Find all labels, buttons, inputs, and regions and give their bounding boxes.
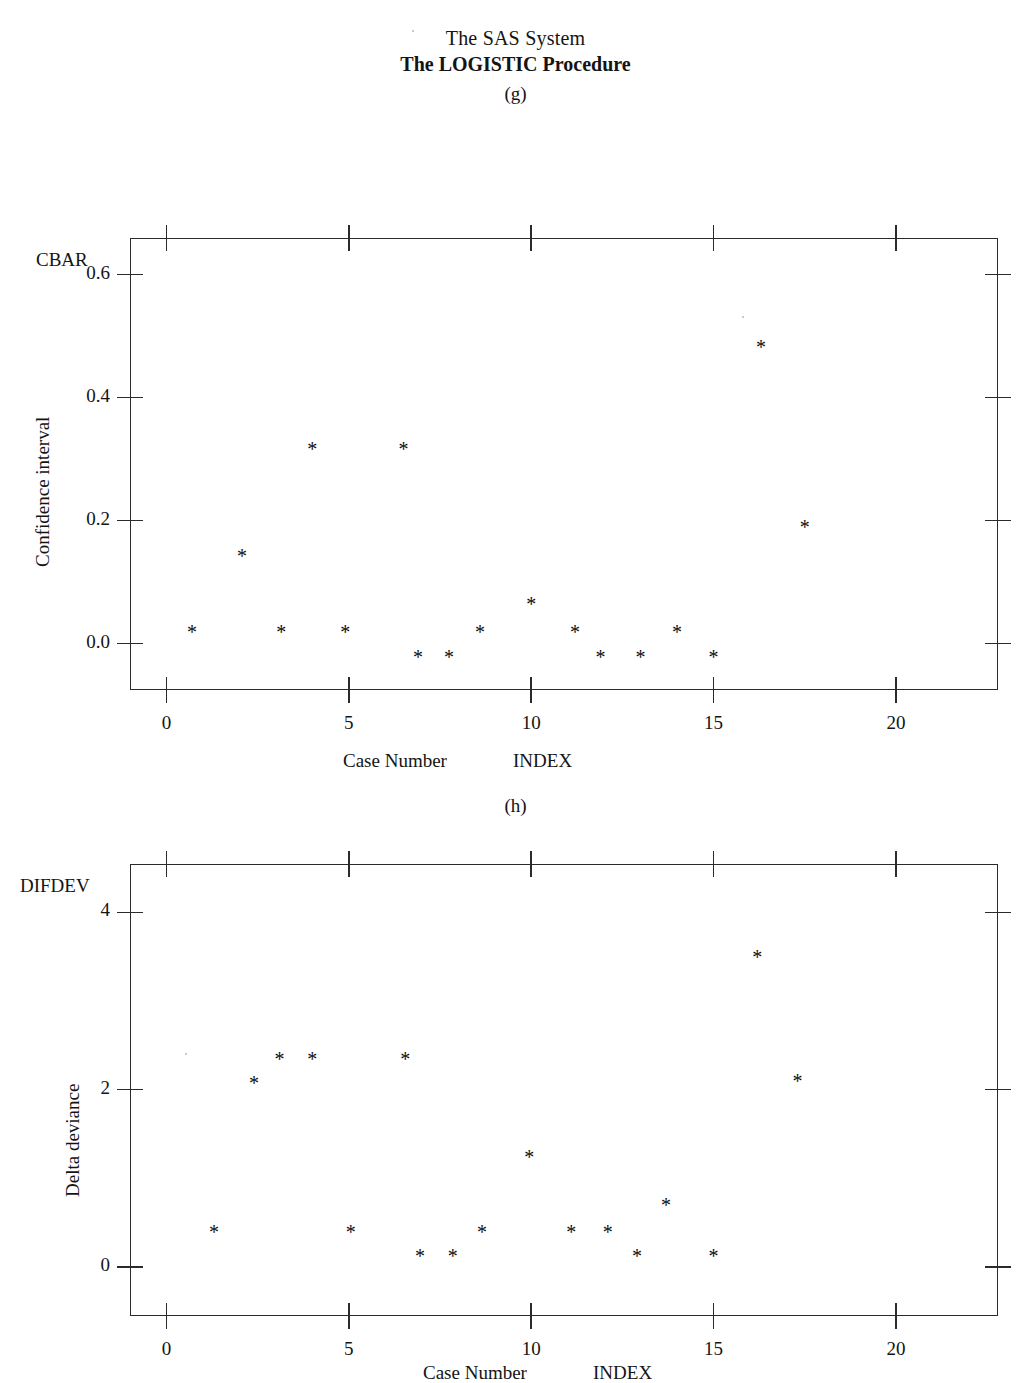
data-point-marker: * (566, 1222, 576, 1242)
x-tick-mark (713, 1303, 715, 1329)
y-tick-label: 0 (38, 1254, 110, 1276)
x-tick-mark (166, 677, 168, 703)
x-tick-mark (895, 677, 897, 703)
y-tick-mark (985, 912, 1011, 914)
x-tick-mark (895, 851, 897, 877)
y-tick-mark (117, 912, 143, 914)
y-tick-label: 4 (38, 899, 110, 921)
data-point-marker: * (415, 1246, 425, 1266)
data-point-marker: * (632, 1246, 642, 1266)
scan-speck (412, 30, 414, 32)
data-layer-h: 05101520024***************** (0, 107, 1031, 667)
y-tick-label: 2 (38, 1077, 110, 1099)
data-point-marker: * (275, 1049, 285, 1069)
x-tick-mark (166, 1303, 168, 1329)
data-point-marker: * (661, 1195, 671, 1215)
data-point-marker: * (209, 1222, 219, 1242)
panel-tag-g: (g) (0, 81, 1031, 107)
y-tick-mark (117, 1266, 143, 1268)
x-axis-title-case-number-h: Case Number (423, 1362, 527, 1383)
x-tick-mark (348, 851, 350, 877)
panel-tag-h: (h) (0, 793, 1031, 819)
data-point-marker: * (477, 1222, 487, 1242)
sas-system-title: The SAS System (0, 26, 1031, 51)
data-point-marker: * (603, 1222, 613, 1242)
plot-frame-h (130, 864, 998, 1316)
procedure-title: The LOGISTIC Procedure (0, 51, 1031, 77)
x-tick-label: 20 (866, 712, 926, 734)
y-tick-mark (985, 1266, 1011, 1268)
x-tick-label: 10 (501, 712, 561, 734)
x-axis-title-index-h: INDEX (593, 1362, 652, 1383)
data-point-marker: * (524, 1147, 534, 1167)
y-tick-mark (985, 1089, 1011, 1091)
data-point-marker: * (448, 1246, 458, 1266)
data-point-marker: * (249, 1073, 259, 1093)
x-tick-mark (530, 677, 532, 703)
y-axis-title-h: Delta deviance (62, 1083, 84, 1196)
data-point-marker: * (307, 1049, 317, 1069)
data-point-marker: * (346, 1222, 356, 1242)
x-tick-label: 15 (684, 1338, 744, 1360)
x-tick-label: 0 (136, 712, 196, 734)
data-point-marker: * (752, 947, 762, 967)
x-tick-mark (713, 851, 715, 877)
data-point-marker: * (792, 1071, 802, 1091)
x-tick-label: 5 (319, 712, 379, 734)
x-tick-mark (530, 851, 532, 877)
x-tick-label: 5 (319, 1338, 379, 1360)
axis-corner-label-difdev: DIFDEV (20, 875, 90, 897)
y-tick-mark (117, 1089, 143, 1091)
scan-speck-2 (742, 316, 744, 318)
x-tick-label: 15 (684, 712, 744, 734)
x-tick-mark (530, 1303, 532, 1329)
x-tick-mark (166, 851, 168, 877)
x-tick-label: 20 (866, 1338, 926, 1360)
page-header: The SAS System The LOGISTIC Procedure (g… (0, 0, 1031, 107)
x-tick-mark (713, 677, 715, 703)
x-tick-mark (348, 1303, 350, 1329)
data-point-marker: * (709, 1246, 719, 1266)
x-tick-mark (895, 1303, 897, 1329)
x-tick-mark (348, 677, 350, 703)
x-tick-label: 0 (136, 1338, 196, 1360)
scan-speck-3 (185, 1053, 187, 1055)
x-tick-label: 10 (501, 1338, 561, 1360)
data-point-marker: * (400, 1049, 410, 1069)
